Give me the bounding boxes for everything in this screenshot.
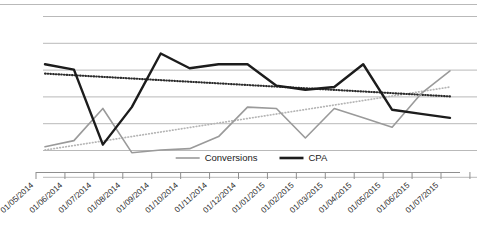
line-chart: 01/05/201401/06/201401/07/201401/08/2014…: [0, 0, 477, 237]
trendline-cpa-trend: [45, 74, 450, 97]
legend-label-conversions: Conversions: [205, 152, 258, 163]
legend-label-cpa: CPA: [308, 152, 327, 163]
series-line-cpa: [45, 54, 450, 145]
chart-container: 01/05/201401/06/201401/07/201401/08/2014…: [0, 0, 477, 237]
